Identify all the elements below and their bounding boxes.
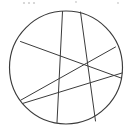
diagram-background bbox=[0, 0, 134, 135]
speck bbox=[23, 2, 25, 4]
circle-chords-diagram: Circle with intersecting chords A plain … bbox=[0, 0, 134, 135]
speck bbox=[33, 2, 35, 4]
figure-container: Circle with intersecting chords A plain … bbox=[0, 0, 134, 135]
speck bbox=[75, 1, 77, 3]
speck bbox=[28, 2, 30, 4]
speck bbox=[117, 2, 119, 4]
